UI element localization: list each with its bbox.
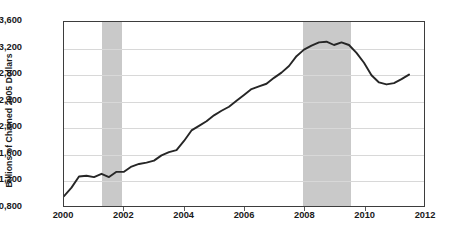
x-axis-tick-mark bbox=[123, 207, 124, 211]
x-axis-tick-label: 2006 bbox=[218, 210, 270, 220]
data-series-layer bbox=[64, 22, 424, 206]
y-axis-tick-label: 13,600 bbox=[0, 15, 22, 25]
y-axis-tick-label: 12,000 bbox=[0, 121, 22, 131]
x-axis-tick-mark bbox=[304, 207, 305, 211]
chart-figure: Billions of Chained 2005 Dollars 13,6001… bbox=[0, 0, 450, 241]
y-axis-tick-label: 11,600 bbox=[0, 148, 22, 158]
plot-area bbox=[63, 21, 425, 207]
x-axis-tick-label: 2010 bbox=[339, 210, 391, 220]
line-real-gdp bbox=[64, 42, 409, 196]
y-axis-tick-label: 10,800 bbox=[0, 201, 22, 211]
y-axis-tick-label: 13,200 bbox=[0, 42, 22, 52]
x-axis-tick-mark bbox=[184, 207, 185, 211]
x-axis-tick-label: 2000 bbox=[37, 210, 89, 220]
x-axis-tick-label: 2008 bbox=[278, 210, 330, 220]
x-axis-tick-label: 2004 bbox=[158, 210, 210, 220]
y-axis-tick-label: 12,400 bbox=[0, 95, 22, 105]
x-axis-tick-label: 2012 bbox=[399, 210, 450, 220]
x-axis-tick-mark bbox=[365, 207, 366, 211]
y-axis-tick-label: 11,200 bbox=[0, 174, 22, 184]
y-axis-tick-label: 12,800 bbox=[0, 68, 22, 78]
x-axis-tick-mark bbox=[244, 207, 245, 211]
x-axis-tick-label: 2002 bbox=[97, 210, 149, 220]
